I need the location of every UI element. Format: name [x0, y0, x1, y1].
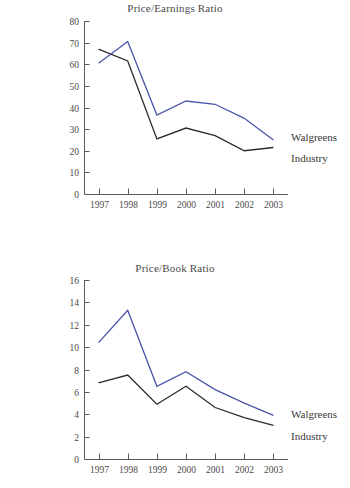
y-tick-label: 30: [70, 125, 80, 135]
y-tick-label: 70: [70, 39, 80, 49]
x-tick-marks: [100, 454, 274, 460]
plot-area-price-book: 0246810121416 19971998199920002001200220…: [0, 244, 350, 488]
y-tick-label: 6: [74, 388, 79, 398]
x-tick-label: 2000: [177, 465, 196, 475]
y-axis: 01020304050607080: [70, 17, 90, 200]
x-tick-label: 1999: [148, 465, 167, 475]
plot-area-price-earnings: 01020304050607080 1997199819992000200120…: [0, 0, 350, 244]
y-tick-label: 20: [70, 147, 80, 157]
y-tick-marks: [85, 22, 90, 195]
x-tick-label: 2002: [235, 465, 254, 475]
x-tick-labels: 1997199819992000200120022003: [90, 200, 283, 210]
legend-label-industry: Industry: [291, 430, 328, 442]
x-tick-labels: 1997199819992000200120022003: [90, 465, 283, 475]
y-tick-label: 0: [74, 455, 79, 465]
y-tick-label: 10: [70, 343, 80, 353]
x-tick-label: 2000: [177, 200, 196, 210]
series-line-industry: [99, 375, 274, 425]
x-tick-label: 2001: [206, 465, 225, 475]
series-line-walgreens: [99, 310, 274, 415]
y-tick-label: 40: [70, 104, 80, 114]
data-series: [99, 310, 274, 425]
y-axis: 0246810121416: [70, 276, 90, 465]
y-tick-label: 50: [70, 82, 80, 92]
legend-label-walgreens: Walgreens: [291, 408, 337, 420]
y-tick-label: 60: [70, 60, 80, 70]
x-tick-label: 1997: [90, 465, 109, 475]
y-tick-label: 80: [70, 17, 80, 27]
x-tick-label: 1998: [119, 465, 138, 475]
y-tick-label: 4: [74, 410, 79, 420]
x-axis: 1997199819992000200120022003: [85, 454, 289, 476]
legend-label-industry: Industry: [291, 152, 328, 164]
y-tick-labels: 01020304050607080: [70, 17, 80, 200]
y-tick-label: 16: [70, 276, 80, 286]
y-tick-labels: 0246810121416: [70, 276, 80, 465]
x-tick-label: 1997: [90, 200, 109, 210]
x-tick-label: 2002: [235, 200, 254, 210]
x-tick-label: 2003: [264, 200, 283, 210]
y-tick-label: 12: [70, 321, 80, 331]
legend: Walgreens Industry: [291, 408, 337, 442]
y-tick-label: 0: [74, 190, 79, 200]
series-line-industry: [99, 49, 274, 151]
y-tick-label: 10: [70, 168, 80, 178]
x-axis: 1997199819992000200120022003: [85, 189, 289, 211]
x-tick-label: 1999: [148, 200, 167, 210]
series-line-walgreens: [99, 42, 274, 140]
figure-page: Price/Earnings Ratio 01020304050607080 1…: [0, 0, 350, 488]
chart-price-earnings-ratio: Price/Earnings Ratio 01020304050607080 1…: [0, 0, 350, 244]
legend-label-walgreens: Walgreens: [291, 131, 337, 143]
legend: Walgreens Industry: [291, 131, 337, 164]
chart-price-book-ratio: Price/Book Ratio 0246810121416 199719981…: [0, 244, 350, 488]
x-tick-label: 1998: [119, 200, 138, 210]
x-tick-marks: [100, 189, 274, 195]
x-tick-label: 2003: [264, 465, 283, 475]
data-series: [99, 42, 274, 151]
y-tick-label: 14: [70, 298, 80, 308]
y-tick-label: 8: [74, 366, 79, 376]
y-tick-marks: [85, 281, 90, 460]
x-tick-label: 2001: [206, 200, 225, 210]
y-tick-label: 2: [74, 433, 79, 443]
